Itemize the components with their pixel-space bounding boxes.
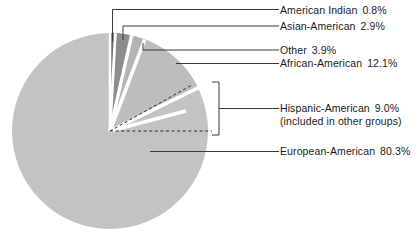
pie-chart-figure: American Indian0.8% Asian-American2.9% O… <box>0 0 419 240</box>
label-other-name: Other <box>280 44 307 56</box>
hispanic-american-bracket <box>212 82 279 135</box>
leader-line-asian-american <box>123 26 279 40</box>
label-hispanic-american-value: 9.0% <box>375 102 399 114</box>
label-asian-american: Asian-American2.9% <box>280 20 385 33</box>
label-hispanic-american: Hispanic-American9.0% (included in other… <box>280 102 402 128</box>
label-american-indian-value: 0.8% <box>362 4 386 16</box>
label-european-american: European-American80.3% <box>280 145 410 158</box>
label-african-american-value: 12.1% <box>367 57 397 69</box>
label-hispanic-american-note: (included in other groups) <box>280 115 402 128</box>
label-other: Other3.9% <box>280 44 336 57</box>
label-other-value: 3.9% <box>312 44 336 56</box>
label-african-american: African-American12.1% <box>280 57 397 70</box>
label-american-indian-name: American Indian <box>280 4 357 16</box>
label-asian-american-name: Asian-American <box>280 20 356 32</box>
label-hispanic-american-name: Hispanic-American <box>280 102 370 114</box>
label-european-american-value: 80.3% <box>380 145 410 157</box>
label-asian-american-value: 2.9% <box>361 20 385 32</box>
label-american-indian: American Indian0.8% <box>280 4 387 17</box>
label-african-american-name: African-American <box>280 57 362 69</box>
label-european-american-name: European-American <box>280 145 375 157</box>
